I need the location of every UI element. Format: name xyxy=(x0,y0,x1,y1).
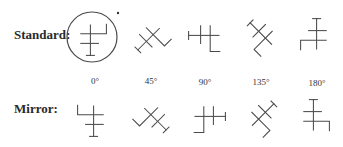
rotation-figure xyxy=(0,0,343,147)
standard-glyph-180 xyxy=(301,19,327,50)
marker-dot-icon xyxy=(117,12,119,14)
mirror-glyph-90 xyxy=(194,107,225,133)
mirror-glyph-180 xyxy=(304,100,330,131)
standard-glyph-135 xyxy=(239,16,279,56)
standard-glyph-90 xyxy=(189,26,220,52)
standard-glyph-45 xyxy=(131,21,171,61)
mirror-glyph-45 xyxy=(133,101,173,141)
standard-glyph-0 xyxy=(67,12,119,62)
mirror-glyph-0 xyxy=(78,105,104,136)
mirror-glyph-135 xyxy=(245,97,285,137)
